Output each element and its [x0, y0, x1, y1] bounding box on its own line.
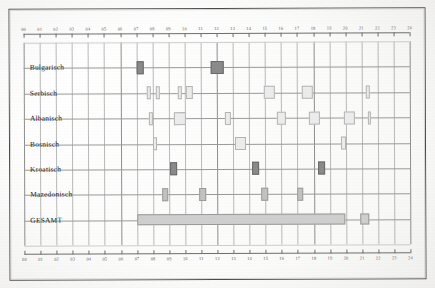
- axis-label-bottom-13: 13: [231, 256, 236, 261]
- axis-label-top-00: 00: [21, 27, 26, 32]
- axis-label-top-04: 04: [85, 26, 90, 31]
- axis-tick-top-14: [249, 33, 250, 37]
- axis-label-top-14: 14: [246, 26, 251, 31]
- chart-page: 0001020304050607080910111213141516171819…: [0, 0, 435, 288]
- bar-serbisch-3: [186, 86, 192, 99]
- axis-label-top-07: 07: [134, 26, 139, 31]
- axis-tick-top-08: [152, 33, 153, 37]
- axis-label-bottom-12: 12: [215, 256, 220, 261]
- axis-tick-bottom-13: [233, 250, 234, 254]
- axis-tick-top-07: [136, 33, 137, 37]
- axis-label-top-06: 06: [118, 26, 123, 31]
- plot-area: 0001020304050607080910111213141516171819…: [24, 32, 411, 254]
- axis-label-top-03: 03: [69, 27, 74, 32]
- axis-tick-bottom-09: [169, 250, 170, 254]
- axis-tick-bottom-19: [330, 250, 331, 254]
- axis-tick-bottom-12: [217, 250, 218, 254]
- bar-serbisch-6: [366, 86, 370, 99]
- axis-label-bottom-03: 03: [70, 257, 75, 262]
- bar-gesamt-0: [137, 214, 345, 226]
- axis-tick-bottom-10: [185, 250, 186, 254]
- axis-tick-top-17: [297, 33, 298, 37]
- axis-label-top-11: 11: [198, 26, 203, 31]
- axis-tick-bottom-01: [40, 251, 41, 255]
- axis-label-top-02: 02: [53, 27, 58, 32]
- bar-mazedonisch-2: [261, 188, 267, 201]
- bar-kroatisch-0: [170, 163, 176, 176]
- axis-tick-top-24: [410, 32, 411, 36]
- bar-bosnisch-0: [153, 137, 156, 150]
- axis-label-bottom-09: 09: [167, 256, 172, 261]
- axis-label-bottom-11: 11: [199, 256, 204, 261]
- chart-row-serbisch: Serbisch: [24, 79, 410, 106]
- bar-albanisch-0: [149, 112, 153, 125]
- axis-label-bottom-21: 21: [360, 255, 365, 260]
- bar-albanisch-2: [225, 112, 231, 125]
- axis-label-top-24: 24: [407, 25, 412, 30]
- axis-label-top-15: 15: [262, 26, 267, 31]
- axis-tick-bottom-07: [137, 250, 138, 254]
- chart-row-mazedonisch: Mazedonisch: [24, 181, 410, 208]
- axis-label-top-23: 23: [391, 25, 396, 30]
- axis-label-bottom-06: 06: [119, 256, 124, 261]
- axis-tick-top-21: [361, 32, 362, 36]
- axis-label-bottom-20: 20: [344, 255, 349, 260]
- axis-tick-bottom-00: [24, 251, 25, 255]
- bar-bosnisch-2: [341, 137, 346, 150]
- bar-albanisch-6: [368, 111, 371, 124]
- axis-tick-bottom-11: [201, 250, 202, 254]
- row-label-serbisch: Serbisch: [30, 88, 57, 97]
- axis-label-top-05: 05: [102, 26, 107, 31]
- axis-tick-top-22: [377, 32, 378, 36]
- axis-tick-bottom-17: [298, 250, 299, 254]
- axis-label-bottom-08: 08: [151, 256, 156, 261]
- axis-tick-top-05: [104, 33, 105, 37]
- axis-label-top-22: 22: [375, 25, 380, 30]
- axis-tick-bottom-15: [266, 250, 267, 254]
- axis-label-bottom-17: 17: [295, 256, 300, 261]
- axis-label-top-10: 10: [182, 26, 187, 31]
- bar-kroatisch-1: [252, 162, 258, 175]
- row-label-mazedonisch: Mazedonisch: [30, 190, 72, 199]
- row-separator: [24, 244, 410, 246]
- axis-tick-bottom-23: [394, 249, 395, 253]
- bar-bulgarisch-0: [136, 61, 143, 74]
- axis-tick-bottom-02: [57, 251, 58, 255]
- axis-tick-top-04: [88, 33, 89, 37]
- axis-label-bottom-00: 00: [22, 257, 27, 262]
- axis-label-top-17: 17: [295, 26, 300, 31]
- axis-tick-bottom-24: [410, 249, 411, 253]
- row-label-kroatisch: Kroatisch: [30, 164, 61, 173]
- bar-gesamt-1: [360, 214, 369, 225]
- chart-row-albanisch: Albanisch: [24, 105, 410, 132]
- chart-grid: BulgarischSerbischAlbanischBosnischKroat…: [24, 41, 411, 245]
- axis-label-bottom-22: 22: [376, 255, 381, 260]
- bar-albanisch-4: [309, 111, 320, 124]
- axis-label-bottom-02: 02: [54, 257, 59, 262]
- bar-albanisch-5: [344, 111, 355, 124]
- axis-tick-bottom-03: [73, 251, 74, 255]
- axis-label-bottom-19: 19: [328, 256, 333, 261]
- axis-label-top-20: 20: [343, 25, 348, 30]
- axis-tick-top-19: [329, 33, 330, 37]
- bar-serbisch-0: [147, 87, 151, 100]
- axis-label-bottom-05: 05: [102, 256, 107, 261]
- axis-tick-bottom-18: [314, 250, 315, 254]
- bar-mazedonisch-1: [199, 188, 205, 201]
- axis-tick-top-13: [233, 33, 234, 37]
- chart-row-bulgarisch: Bulgarisch: [24, 54, 410, 81]
- row-label-bulgarisch: Bulgarisch: [30, 63, 65, 72]
- axis-label-bottom-10: 10: [183, 256, 188, 261]
- axis-label-top-19: 19: [327, 26, 332, 31]
- axis-label-top-12: 12: [214, 26, 219, 31]
- axis-label-top-21: 21: [359, 25, 364, 30]
- chart-row-kroatisch: Kroatisch: [24, 155, 410, 182]
- axis-tick-bottom-22: [378, 249, 379, 253]
- row-label-gesamt: GESAMT: [30, 215, 62, 224]
- axis-label-bottom-16: 16: [279, 256, 284, 261]
- axis-label-bottom-07: 07: [135, 256, 140, 261]
- axis-tick-top-06: [120, 33, 121, 37]
- axis-tick-top-12: [217, 33, 218, 37]
- axis-tick-bottom-16: [282, 250, 283, 254]
- axis-label-top-18: 18: [311, 26, 316, 31]
